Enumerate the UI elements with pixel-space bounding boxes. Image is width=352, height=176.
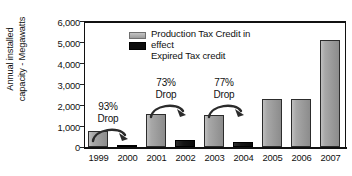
legend-label-line-2: effect <box>151 39 174 51</box>
drop-arrow-1999-2000-icon <box>89 124 133 144</box>
annotation-93-percent-drop: 93% Drop <box>86 101 130 125</box>
annotation-77-percent-drop: 77% Drop <box>202 77 246 101</box>
y-axis-title-line-2: capacity - Megawatts <box>17 0 29 133</box>
bar-2007 <box>320 40 340 147</box>
y-axis-tick-labels: 6,000 5,000 4,000 3,000 2,000 1,000 0 <box>44 0 80 176</box>
legend-label-expired: Expired Tax credit <box>151 50 225 62</box>
drop-arrow-2003-2004-icon <box>205 100 249 120</box>
bar-2000 <box>117 145 137 147</box>
y-axis-title-line-1: Annual installed <box>5 0 17 133</box>
y-tick-label: 4,000 <box>46 60 80 69</box>
x-axis-tick-labels: 1999 2000 2001 2002 2003 2004 2005 2006 … <box>84 152 347 168</box>
drop-arrow-2001-2002-icon <box>147 100 191 120</box>
bar-2005 <box>262 99 282 147</box>
legend-item-expired-tax-credit: Expired Tax credit <box>129 51 319 63</box>
annotation-percent: 93% <box>86 101 130 113</box>
bar-chart-figure: Annual installed capacity - Megawatts 6,… <box>0 0 352 176</box>
y-tick-label: 5,000 <box>46 39 80 48</box>
y-tick-label: 0 <box>46 143 80 152</box>
bar-2004 <box>233 142 253 147</box>
chart-legend: Production Tax Credit in effect Expired … <box>129 29 319 63</box>
y-axis-title: Annual installed capacity - Megawatts <box>5 0 39 133</box>
bar-2006 <box>291 99 311 147</box>
black-swatch-icon <box>129 42 146 50</box>
x-axis-line <box>84 147 347 149</box>
y-tick-label: 6,000 <box>46 18 80 27</box>
gray-swatch-icon <box>129 32 146 39</box>
y-tick-label: 2,000 <box>46 102 80 111</box>
y-tick-label: 1,000 <box>46 123 80 132</box>
legend-label-line-1: Production Tax Credit in <box>151 28 250 40</box>
bar-2002 <box>175 140 195 147</box>
x-tick-label-2007: 2007 <box>314 152 347 163</box>
annotation-73-percent-drop: 73% Drop <box>144 77 188 101</box>
annotation-percent: 77% <box>202 77 246 89</box>
y-tick-label: 3,000 <box>46 81 80 90</box>
annotation-percent: 73% <box>144 77 188 89</box>
